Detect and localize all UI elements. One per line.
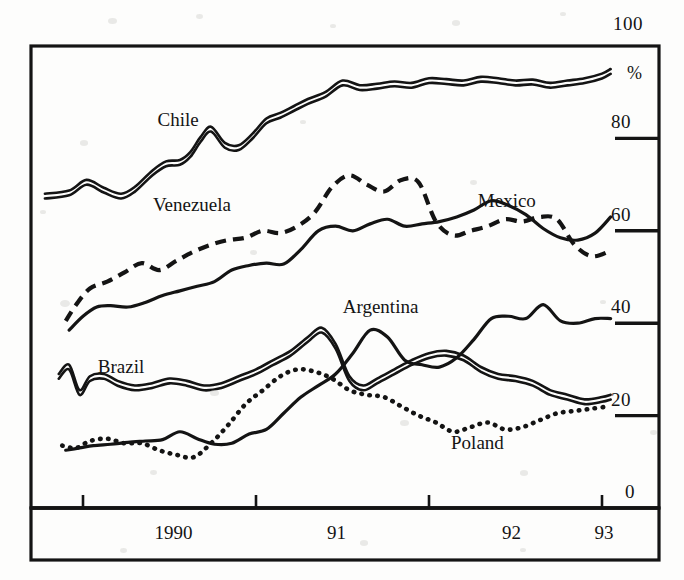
percent-unit-label: % [627, 63, 642, 84]
paper-speckle [80, 140, 88, 146]
series-paths [45, 69, 611, 458]
series-path-argentina [66, 305, 611, 451]
paper-speckle [150, 470, 157, 475]
paper-speckle [360, 540, 368, 546]
x-axis-label-93: 93 [595, 522, 614, 544]
paper-speckle [196, 14, 203, 19]
paper-speckle [120, 548, 127, 553]
y-axis-label-40: 40 [611, 297, 631, 316]
series-label-venezuela: Venezuela [153, 195, 231, 214]
series-label-mexico: Mexico [478, 191, 536, 210]
series-label-poland: Poland [451, 433, 504, 452]
paper-speckle [650, 430, 657, 435]
series-label-argentina: Argentina [343, 297, 419, 316]
series-label-chile: Chile [158, 110, 199, 129]
y-axis-label-60: 60 [611, 205, 631, 224]
series-path-chile [45, 69, 611, 199]
x-axis-label-1990: 1990 [155, 522, 193, 544]
line-chart-canvas [0, 0, 684, 580]
paper-speckle [452, 20, 460, 26]
paper-speckle [520, 470, 528, 476]
paper-speckle [250, 250, 257, 255]
y-axis-label-20: 20 [611, 390, 631, 409]
paper-speckle [470, 180, 477, 185]
x-axis-label-92: 92 [502, 522, 521, 544]
series-label-brazil: Brazil [98, 357, 144, 376]
chart-figure: 100 80 60 40 20 0 % 1990 91 92 93 Chile … [0, 0, 684, 580]
x-axis-label-91: 91 [327, 522, 346, 544]
y-axis-label-80: 80 [611, 112, 631, 131]
y-axis-label-0: 0 [625, 482, 635, 501]
paper-speckle [60, 300, 70, 307]
y-axis-label-100: 100 [613, 14, 643, 33]
